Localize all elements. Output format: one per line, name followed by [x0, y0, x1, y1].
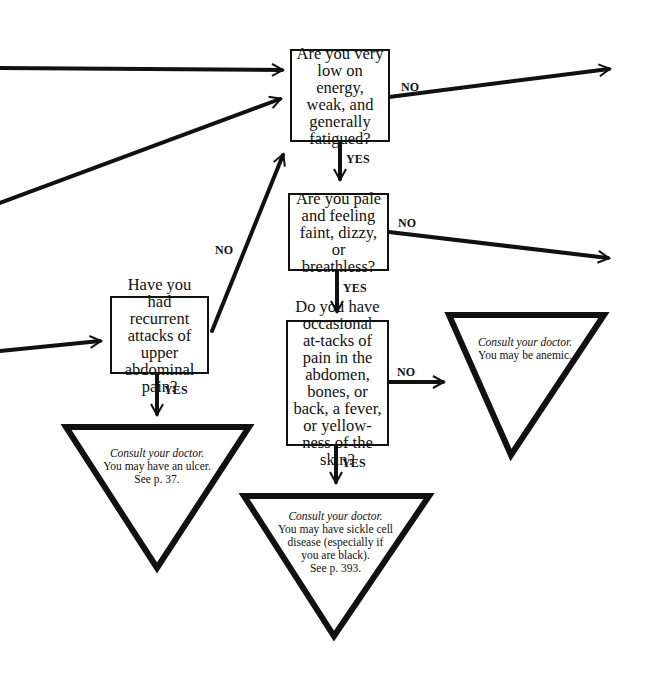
outcome-sickle-line: disease (especially if [268, 536, 403, 549]
outcome-anemic-line: You may be anemic. [460, 349, 590, 362]
outcome-ulcer-text: Consult your doctor. You may have an ulc… [87, 447, 227, 486]
energy-yes-label: YES [346, 152, 370, 167]
question-energy-box: Are you very low on energy, weak, and ge… [290, 49, 390, 142]
question-pale-text: Are you pale and feeling faint, dizzy, o… [294, 190, 383, 275]
sickle-yes-label: YES [342, 456, 366, 471]
question-energy-text: Are you very low on energy, weak, and ge… [296, 45, 384, 147]
outcome-sickle-line: See p. 393. [268, 562, 403, 575]
outcome-sickle-line: you are black). [268, 549, 403, 562]
question-sickle-box: Do you have occasional at-tacks of pain … [286, 320, 389, 446]
outcome-sickle-line: You may have sickle cell [268, 523, 403, 536]
energy-no-arrow [389, 69, 609, 97]
pale-yes-label: YES [343, 281, 367, 296]
question-pale-box: Are you pale and feeling faint, dizzy, o… [288, 193, 389, 271]
abdominal-no-label: NO [215, 243, 233, 258]
incoming-arrow-2 [0, 99, 280, 203]
outcome-sickle-text: Consult your doctor. You may have sickle… [268, 510, 403, 575]
abdominal-yes-label: YES [164, 383, 188, 398]
energy-no-label: NO [401, 80, 419, 95]
outcome-ulcer-line: You may have an ulcer. [87, 460, 227, 473]
pale-no-label: NO [398, 216, 416, 231]
outcome-anemic-text: Consult your doctor. You may be anemic. [460, 336, 590, 362]
outcome-sickle-title: Consult your doctor. [268, 510, 403, 523]
sickle-no-label: NO [397, 365, 415, 380]
incoming-arrow-1 [0, 68, 282, 70]
pale-no-arrow [389, 232, 608, 258]
outcome-anemic-title: Consult your doctor. [460, 336, 590, 349]
question-abdominal-box: Have you had recurrent attacks of upper … [110, 296, 209, 374]
outcome-ulcer-line: See p. 37. [87, 473, 227, 486]
question-abdominal-text: Have you had recurrent attacks of upper … [116, 276, 203, 395]
outcome-ulcer-title: Consult your doctor. [87, 447, 227, 460]
question-sickle-text: Do you have occasional at-tacks of pain … [292, 298, 383, 468]
incoming-arrow-3 [0, 341, 100, 351]
